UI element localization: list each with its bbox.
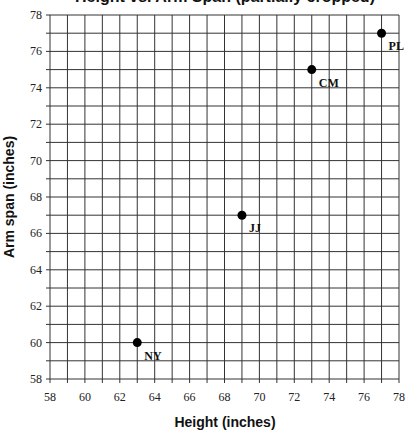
point-marker-icon (237, 211, 246, 220)
x-tick-label: 76 (358, 390, 370, 404)
point-marker-icon (307, 65, 316, 74)
y-tick-label: 64 (30, 263, 42, 277)
x-tick-label: 78 (393, 390, 405, 404)
x-tick-label: 64 (149, 390, 161, 404)
x-tick-label: 68 (219, 390, 231, 404)
point-label: JJ (249, 221, 261, 235)
y-tick-label: 62 (30, 299, 42, 313)
point-label: PL (389, 39, 404, 53)
y-tick-label: 72 (30, 117, 42, 131)
x-axis-title: Height (inches) (174, 414, 275, 430)
y-tick-label: 70 (30, 154, 42, 168)
y-tick-label: 76 (30, 44, 42, 58)
y-tick-label: 66 (30, 226, 42, 240)
point-label: CM (319, 76, 339, 90)
x-tick-label: 74 (323, 390, 335, 404)
data-point-jj: JJ (237, 211, 261, 236)
data-points: PLCMJJNY (133, 29, 404, 363)
x-tick-label: 72 (288, 390, 300, 404)
x-axis-ticks: 5860626466687072747678 (44, 390, 405, 404)
point-marker-icon (377, 29, 386, 38)
y-tick-label: 68 (30, 190, 42, 204)
y-axis-ticks: 5860626466687072747678 (30, 8, 42, 386)
plot-grid (46, 15, 399, 383)
y-tick-label: 58 (30, 372, 42, 386)
chart-title: Height vs. Arm Span (partially cropped) (75, 0, 375, 5)
x-tick-label: 66 (184, 390, 196, 404)
point-marker-icon (133, 338, 142, 347)
x-tick-label: 58 (44, 390, 56, 404)
y-tick-label: 60 (30, 336, 42, 350)
x-tick-label: 62 (114, 390, 126, 404)
x-tick-label: 60 (79, 390, 91, 404)
y-tick-label: 78 (30, 8, 42, 22)
point-label: NY (144, 349, 162, 363)
x-tick-label: 70 (253, 390, 265, 404)
y-tick-label: 74 (30, 81, 42, 95)
scatter-chart: Height vs. Arm Span (partially cropped) … (0, 0, 405, 434)
y-axis-title: Arm span (inches) (1, 136, 17, 258)
